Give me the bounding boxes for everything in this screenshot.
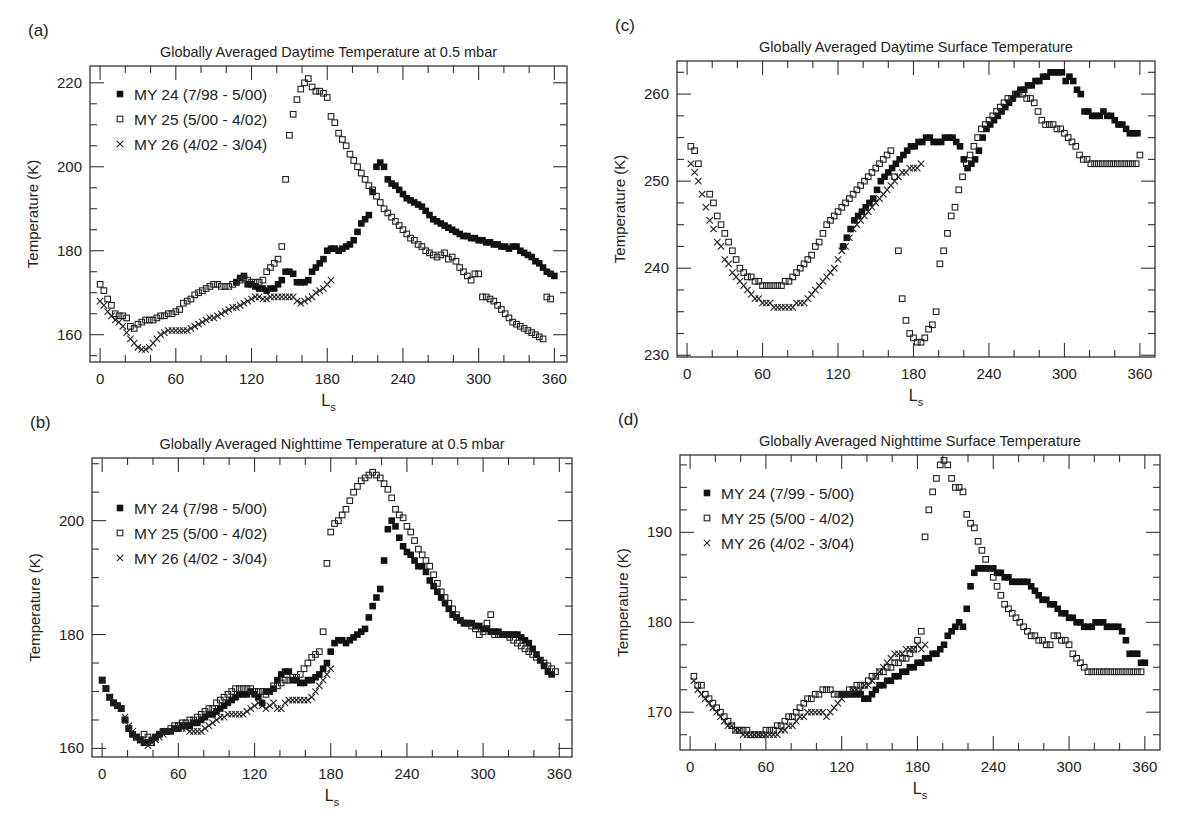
filled-square-marker	[290, 271, 297, 278]
x-marker	[270, 700, 276, 706]
open-square-marker	[389, 214, 395, 220]
y-tick-label: 160	[59, 739, 84, 756]
open-square-marker	[472, 271, 478, 277]
open-square-marker	[120, 313, 126, 319]
filled-square-marker	[400, 543, 407, 550]
open-square-marker	[324, 561, 330, 567]
open-square-marker	[730, 248, 736, 254]
open-square-marker	[714, 213, 720, 219]
x-tick-label: 180	[315, 370, 340, 387]
open-square-marker	[449, 254, 455, 260]
open-square-marker	[771, 283, 777, 289]
y-tick-label: 160	[57, 326, 82, 343]
open-square-marker	[396, 223, 402, 229]
x-marker	[710, 226, 716, 232]
open-square-marker	[117, 116, 123, 122]
filled-square-marker	[1070, 78, 1077, 85]
filled-square-marker	[960, 623, 967, 630]
filled-square-marker	[255, 694, 262, 701]
x-marker	[282, 700, 288, 706]
open-square-marker	[983, 557, 989, 563]
open-square-marker	[169, 311, 175, 317]
filled-square-marker	[388, 517, 395, 524]
open-square-marker	[1099, 161, 1105, 167]
open-square-marker	[377, 200, 383, 206]
chart-panel-a: (a)Globally Averaged Daytime Temperature…	[24, 21, 567, 413]
open-square-marker	[480, 294, 486, 300]
open-square-marker	[1104, 669, 1110, 675]
legend: MY 24 (7/99 - 5/00)MY 25 (5/00 - 4/02)MY…	[704, 485, 855, 552]
y-axis-label: Temperature (K)	[24, 160, 41, 268]
x-marker	[320, 677, 326, 683]
filled-square-marker	[369, 603, 376, 610]
x-tick-label: 360	[1132, 758, 1157, 775]
x-tick-label: 360	[547, 765, 572, 782]
filled-square-marker	[1077, 91, 1084, 98]
open-square-marker	[366, 183, 372, 189]
x-marker	[244, 708, 250, 714]
filled-square-marker	[411, 557, 418, 564]
x-tick-label: 180	[318, 765, 343, 782]
x-tick-label: 300	[1057, 758, 1082, 775]
open-square-marker	[1134, 669, 1140, 675]
open-square-marker	[339, 512, 345, 518]
x-marker	[308, 694, 314, 700]
open-square-marker	[926, 507, 932, 513]
filled-square-marker	[305, 277, 312, 284]
x-marker	[248, 705, 254, 711]
open-square-marker	[355, 484, 361, 490]
open-square-marker	[1092, 161, 1098, 167]
series-x	[691, 642, 929, 738]
filled-square-marker	[316, 671, 323, 678]
filled-square-marker	[362, 626, 369, 633]
open-square-marker	[1123, 669, 1129, 675]
open-square-marker	[514, 321, 520, 327]
x-tick-label: 60	[754, 365, 771, 382]
filled-square-marker	[381, 163, 388, 170]
filled-square-marker	[1119, 628, 1126, 635]
x-marker	[101, 302, 107, 308]
x-marker	[221, 714, 227, 720]
filled-square-marker	[419, 563, 426, 570]
legend-label: MY 26 (4/02 - 3/04)	[721, 535, 854, 552]
filled-square-marker	[392, 523, 399, 530]
open-square-marker	[218, 284, 224, 290]
open-square-marker	[215, 282, 221, 288]
x-tick-label: 240	[976, 365, 1001, 382]
filled-square-marker	[320, 665, 327, 672]
open-square-marker	[899, 296, 905, 302]
open-square-marker	[393, 506, 399, 512]
open-square-marker	[362, 177, 368, 183]
open-square-marker	[309, 84, 315, 90]
open-square-marker	[283, 177, 289, 183]
filled-square-marker	[279, 277, 286, 284]
open-square-marker	[994, 584, 1000, 590]
plot-frame	[677, 61, 1155, 357]
open-square-marker	[1122, 161, 1128, 167]
x-marker	[198, 728, 204, 734]
open-square-marker	[97, 282, 103, 288]
filled-square-marker	[366, 614, 373, 621]
open-square-marker	[427, 250, 433, 256]
open-square-marker	[430, 252, 436, 258]
open-square-marker	[446, 256, 452, 262]
open-square-marker	[930, 489, 936, 495]
open-square-marker	[903, 318, 909, 324]
x-marker	[263, 705, 269, 711]
x-marker	[117, 141, 123, 147]
open-square-marker	[510, 319, 516, 325]
x-marker	[240, 711, 246, 717]
open-square-marker	[1130, 161, 1136, 167]
open-square-marker	[287, 132, 293, 138]
open-square-marker	[328, 114, 334, 120]
x-axis-label: Ls	[913, 780, 928, 801]
open-square-marker	[343, 143, 349, 149]
open-square-marker	[518, 324, 524, 330]
x-marker	[312, 688, 318, 694]
open-square-marker	[1047, 122, 1053, 128]
open-square-marker	[158, 313, 164, 319]
x-marker	[835, 256, 841, 262]
x-marker	[922, 642, 928, 648]
legend: MY 24 (7/98 - 5/00)MY 25 (5/00 - 4/02)MY…	[117, 86, 268, 153]
filled-square-marker	[381, 557, 388, 564]
